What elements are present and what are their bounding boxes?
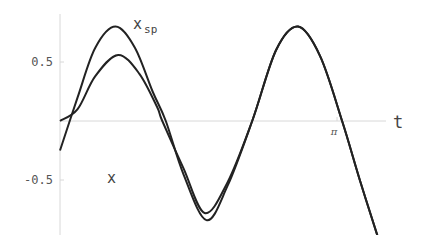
y-tick-label-pos: 0.5 xyxy=(31,55,53,69)
chart: 0.5 -0.5 π t xsp x xyxy=(0,0,429,235)
x-sp-label: xsp xyxy=(133,15,157,36)
pi-tick-label: π xyxy=(330,126,338,137)
x-sp-label-sub: sp xyxy=(144,23,157,36)
x-label: x xyxy=(107,169,116,187)
x-sp-label-main: x xyxy=(133,15,142,33)
y-tick-label-neg: -0.5 xyxy=(24,173,53,187)
t-axis-label: t xyxy=(393,112,403,132)
